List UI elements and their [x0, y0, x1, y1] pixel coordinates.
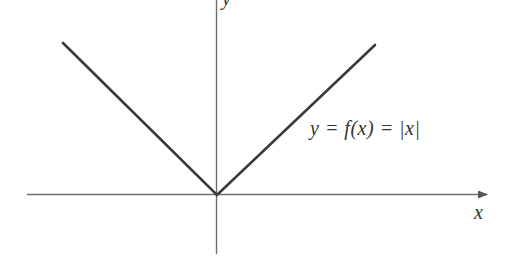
function-label: y = f(x) = |x| — [308, 117, 421, 140]
absolute-value-graph: y y = f(x) = |x| x — [0, 0, 507, 259]
y-axis-label: y — [220, 0, 231, 10]
x-axis-label: x — [473, 201, 483, 223]
